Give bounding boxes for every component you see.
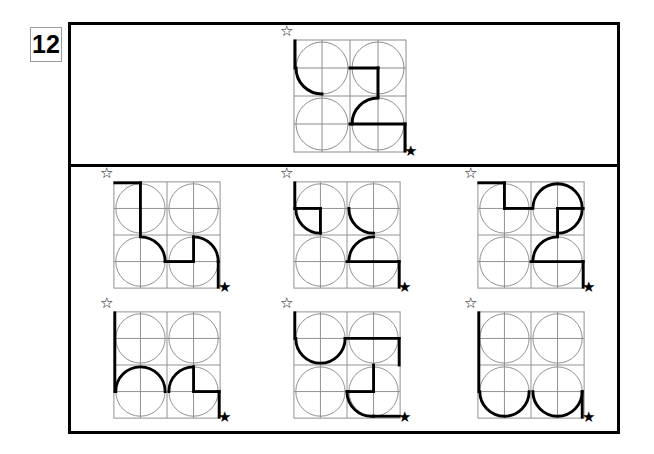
star-filled-icon: ★ [216,278,233,295]
option-1-svg [112,180,222,290]
star-filled-icon: ★ [396,408,413,425]
light-grid [294,182,400,288]
option-3[interactable]: ☆ ★ [476,180,586,290]
light-grid [114,312,220,418]
puzzle-number-label: 12 [30,27,62,62]
option-4-svg [112,310,222,420]
star-filled-icon: ★ [402,142,419,159]
star-outline-icon: ☆ [462,164,479,181]
star-filled-icon: ★ [216,408,233,425]
star-filled-icon: ★ [580,408,597,425]
option-3-svg [476,180,586,290]
option-2-svg [292,180,402,290]
star-outline-icon: ☆ [462,294,479,311]
light-grid [114,182,220,288]
question-figure[interactable]: ☆ ★ [292,38,408,154]
star-outline-icon: ☆ [98,164,115,181]
option-4[interactable]: ☆ ★ [112,310,222,420]
star-outline-icon: ☆ [98,294,115,311]
light-grid [294,40,406,152]
option-2[interactable]: ☆ ★ [292,180,402,290]
option-5[interactable]: ☆ ★ [292,310,402,420]
star-outline-icon: ☆ [278,294,295,311]
star-filled-icon: ★ [580,278,597,295]
star-outline-icon: ☆ [278,164,295,181]
option-6[interactable]: ☆ ★ [476,310,586,420]
option-6-svg [476,310,586,420]
option-1[interactable]: ☆ ★ [112,180,222,290]
light-grid [294,312,400,418]
light-grid [478,312,584,418]
star-filled-icon: ★ [396,278,413,295]
light-grid [478,182,584,288]
question-figure-svg [292,38,408,154]
option-5-svg [292,310,402,420]
question-options-divider [68,164,620,167]
star-outline-icon: ☆ [278,22,295,39]
puzzle-root: 12 [0,0,654,454]
